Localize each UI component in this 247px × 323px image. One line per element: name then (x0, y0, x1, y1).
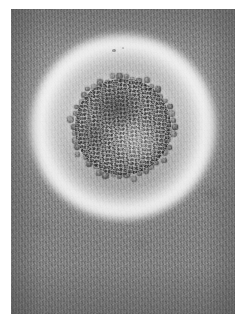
micrograph-figure (0, 0, 247, 323)
micrograph-image (11, 9, 235, 314)
edge-vignette (11, 9, 235, 314)
